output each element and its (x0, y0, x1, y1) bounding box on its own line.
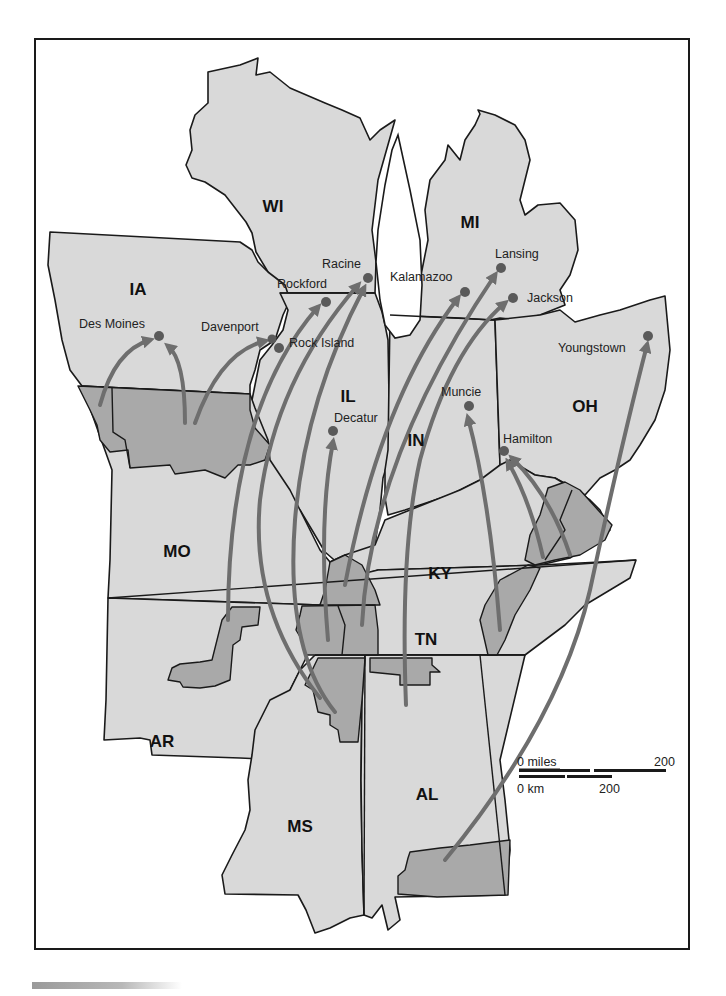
city-dot-davenport (268, 335, 277, 344)
state-iowa (48, 232, 290, 394)
state-label: WI (263, 197, 284, 216)
state-label: MI (461, 213, 480, 232)
scale-km-label: 0 km (517, 782, 544, 796)
scale-miles-label: 0 miles (517, 755, 557, 769)
city-label-des-moines: Des Moines (79, 317, 145, 331)
state-label: TN (415, 630, 438, 649)
city-label-decatur: Decatur (334, 411, 378, 425)
city-label-hamilton: Hamilton (503, 432, 552, 446)
city-dot-lansing (496, 263, 506, 273)
scale-km-max: 200 (599, 782, 620, 796)
city-label-jackson: Jackson (527, 291, 573, 305)
decorative-gradient-bar (32, 982, 182, 989)
state-label: AR (150, 732, 175, 751)
city-dot-rockford (321, 297, 331, 307)
city-dot-youngstown (643, 331, 653, 341)
origin-region-southern-iowa-northern-missouri (78, 386, 270, 478)
city-label-youngstown: Youngstown (558, 341, 626, 355)
state-label: IA (130, 280, 147, 299)
state-label: IN (408, 431, 425, 450)
city-label-racine: Racine (322, 257, 361, 271)
city-label-lansing: Lansing (495, 247, 539, 261)
city-dot-des-moines (154, 331, 164, 341)
city-label-kalamazoo: Kalamazoo (390, 270, 453, 284)
city-label-rockford: Rockford (277, 277, 327, 291)
origin-region-western-tennessee (296, 605, 378, 655)
state-label: MO (163, 542, 190, 561)
state-label: KY (428, 564, 452, 583)
city-dot-hamilton (499, 446, 509, 456)
city-dot-muncie (464, 401, 474, 411)
migration-map: WI MI IA IL OH IN MO KY TN AR AL MS Raci… (0, 0, 726, 996)
scale-bar: 0 miles 200 0 km 200 (517, 755, 675, 796)
state-label: MS (287, 817, 313, 836)
city-label-muncie: Muncie (441, 385, 481, 399)
city-label-rock-island: Rock Island (289, 336, 354, 350)
state-label: AL (416, 785, 439, 804)
city-dot-jackson (508, 293, 518, 303)
state-label: OH (572, 397, 598, 416)
city-dot-rock-island (274, 343, 284, 353)
state-label: IL (340, 387, 355, 406)
city-label-davenport: Davenport (201, 320, 259, 334)
city-dot-racine (363, 273, 373, 283)
city-dot-decatur (328, 426, 338, 436)
city-dot-kalamazoo (460, 287, 470, 297)
scale-miles-max: 200 (654, 755, 675, 769)
